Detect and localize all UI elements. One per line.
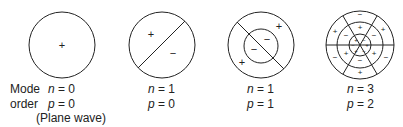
- svg-text:−: −: [362, 48, 366, 54]
- svg-text:−: −: [384, 53, 389, 62]
- svg-text:+: +: [276, 20, 282, 32]
- svg-text:+: +: [358, 23, 363, 32]
- mode-n3p2-n-label: n = 3: [347, 82, 374, 97]
- svg-text:+: +: [354, 48, 358, 54]
- mode-n1-p1-diagram: + − − +: [228, 12, 294, 78]
- svg-text:+: +: [358, 68, 363, 77]
- svg-text:−: −: [251, 43, 257, 55]
- svg-text:+: +: [381, 25, 386, 34]
- mode-n0-n-label: n = 0: [48, 82, 75, 97]
- svg-text:−: −: [372, 31, 377, 40]
- mode-n3p2-p-label: p = 2: [347, 97, 374, 112]
- svg-text:+: +: [148, 28, 154, 40]
- row-label-order: order: [10, 97, 38, 112]
- svg-text:−: −: [170, 47, 176, 59]
- mode-n1p0-n-label: n = 1: [148, 82, 175, 97]
- plane-wave-note: (Plane wave): [36, 111, 106, 126]
- svg-text:+: +: [354, 37, 358, 43]
- mode-n0-p-label: p = 0: [48, 97, 75, 112]
- mode-n0-p0-diagram: +: [29, 12, 95, 78]
- plus-sign: +: [59, 39, 65, 51]
- svg-text:+: +: [239, 56, 245, 68]
- svg-text:+: +: [333, 27, 338, 36]
- svg-text:+: +: [372, 49, 377, 58]
- svg-text:−: −: [351, 42, 355, 48]
- svg-text:+: +: [365, 42, 369, 48]
- svg-text:−: −: [344, 31, 349, 40]
- svg-text:−: −: [264, 33, 270, 45]
- mode-n1p1-p-label: p = 1: [247, 97, 274, 112]
- mode-n1p0-p-label: p = 0: [148, 97, 175, 112]
- svg-text:−: −: [358, 10, 363, 19]
- mode-n3-p2-diagram: − + − + − + + − + − + − + − + − +: [326, 10, 394, 79]
- row-label-mode: Mode: [10, 82, 40, 97]
- mode-n1p1-n-label: n = 1: [247, 82, 274, 97]
- svg-text:−: −: [333, 53, 338, 62]
- mode-n1-p0-diagram: + −: [129, 12, 195, 78]
- svg-text:+: +: [344, 49, 349, 58]
- svg-text:−: −: [358, 56, 363, 65]
